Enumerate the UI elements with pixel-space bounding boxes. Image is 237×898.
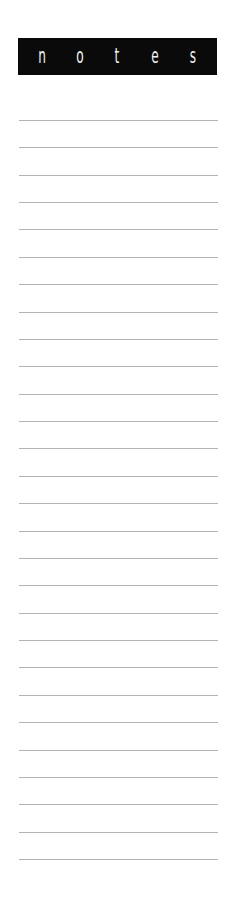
ruled-line	[19, 175, 218, 176]
ruled-line	[19, 722, 218, 723]
header-letter-o: o	[75, 45, 86, 67]
ruled-line	[19, 229, 218, 230]
ruled-line	[19, 284, 218, 285]
ruled-line	[19, 503, 218, 504]
notes-header: n o t e s	[18, 38, 217, 75]
ruled-line	[19, 366, 218, 367]
ruled-line	[19, 147, 218, 148]
ruled-line	[19, 695, 218, 696]
ruled-line	[19, 339, 218, 340]
ruled-line	[19, 257, 218, 258]
ruled-line	[19, 585, 218, 586]
ruled-line	[19, 448, 218, 449]
header-letter-s: s	[188, 45, 199, 67]
ruled-line	[19, 202, 218, 203]
ruled-line	[19, 832, 218, 833]
header-letter-t: t	[112, 45, 123, 67]
ruled-line	[19, 394, 218, 395]
ruled-line	[19, 777, 218, 778]
ruled-line	[19, 613, 218, 614]
ruled-line	[19, 476, 218, 477]
header-letter-e: e	[150, 45, 161, 67]
ruled-line	[19, 750, 218, 751]
ruled-line	[19, 804, 218, 805]
ruled-line	[19, 312, 218, 313]
ruled-line	[19, 859, 218, 860]
ruled-line	[19, 421, 218, 422]
ruled-line	[19, 531, 218, 532]
ruled-line	[19, 640, 218, 641]
ruled-line	[19, 120, 218, 121]
header-letter-n: n	[37, 45, 48, 67]
ruled-line	[19, 558, 218, 559]
ruled-line	[19, 667, 218, 668]
